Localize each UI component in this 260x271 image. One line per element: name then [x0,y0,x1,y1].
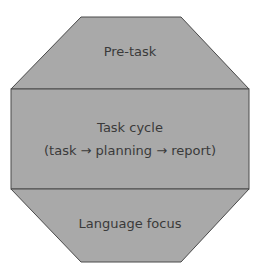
section-task-cycle [11,89,249,189]
task-cycle-label: Task cycle [0,120,260,135]
language-focus-label: Language focus [0,216,260,231]
task-cycle-subtitle: (task → planning → report) [0,143,260,158]
pre-task-label: Pre-task [0,44,260,59]
